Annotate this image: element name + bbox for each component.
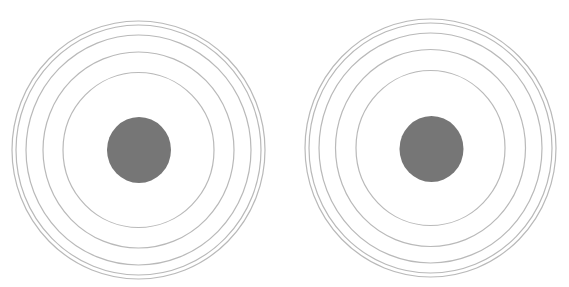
center-disc [107, 117, 171, 183]
concentric-circles-figure [0, 0, 569, 287]
figure-svg [0, 0, 569, 287]
center-disc [400, 116, 464, 182]
left-target [12, 21, 265, 279]
right-target [305, 19, 556, 277]
